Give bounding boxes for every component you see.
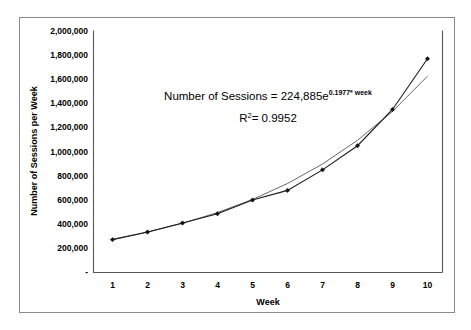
- chart-canvas: 2,000,000 1,800,000 1,600,000 1,400,000 …: [0, 0, 471, 330]
- y-tick-label: 600,000: [57, 195, 88, 205]
- x-tick-label: 10: [423, 280, 433, 290]
- x-tick-label: 7: [320, 280, 325, 290]
- x-axis-tick-labels: 1 2 3 4 5 6 7 8 9 10: [110, 280, 432, 290]
- y-tick-label: 1,600,000: [50, 74, 88, 84]
- y-axis-title: Number of Sessions per Week: [29, 85, 39, 215]
- y-tick-label-zero: -: [85, 267, 88, 277]
- r-squared-line: R2= 0.9952: [239, 111, 297, 124]
- x-tick-label: 8: [355, 280, 360, 290]
- chart-figure: 2,000,000 1,800,000 1,600,000 1,400,000 …: [0, 0, 471, 330]
- equation-prefix: Number of Sessions = 224,885e: [164, 90, 329, 102]
- data-point-marker: [180, 221, 184, 225]
- y-tick-label: 400,000: [57, 219, 88, 229]
- data-point-markers: [110, 57, 429, 242]
- data-series-path: [113, 59, 428, 240]
- x-axis-title: Week: [256, 297, 280, 307]
- r-squared-value: = 0.9952: [252, 112, 297, 124]
- y-tick-label: 2,000,000: [50, 26, 88, 36]
- y-axis-tick-labels: 2,000,000 1,800,000 1,600,000 1,400,000 …: [50, 26, 88, 277]
- x-tick-label: 6: [285, 280, 290, 290]
- y-tick-label: 1,000,000: [50, 147, 88, 157]
- x-tick-label: 1: [110, 280, 115, 290]
- equation-exponent: 0.1977* week: [329, 89, 372, 96]
- y-tick-label: 200,000: [57, 243, 88, 253]
- y-tick-label: 800,000: [57, 171, 88, 181]
- y-tick-label: 1,800,000: [50, 50, 88, 60]
- equation-line: Number of Sessions = 224,885e0.1977* wee…: [164, 89, 372, 102]
- axis-lines: [94, 31, 443, 273]
- y-tick-label: 1,400,000: [50, 98, 88, 108]
- data-point-marker: [145, 230, 149, 234]
- x-tick-label: 9: [390, 280, 395, 290]
- equation-annotation: Number of Sessions = 224,885e0.1977* wee…: [164, 89, 372, 124]
- y-tick-label: 1,200,000: [50, 122, 88, 132]
- x-tick-label: 2: [145, 280, 150, 290]
- x-tick-label: 3: [180, 280, 185, 290]
- x-tick-label: 5: [250, 280, 255, 290]
- data-point-marker: [110, 237, 114, 241]
- plot-series-group: [110, 57, 429, 242]
- chart-axes: [94, 31, 443, 273]
- x-tick-label: 4: [215, 280, 220, 290]
- r-squared-label: R: [239, 112, 247, 124]
